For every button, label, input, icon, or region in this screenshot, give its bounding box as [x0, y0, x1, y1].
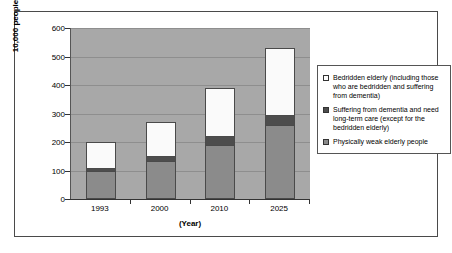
- bar-2025[interactable]: [265, 48, 295, 199]
- legend-item[interactable]: Bedridden elderly (including those who a…: [323, 73, 445, 100]
- y-axis-tick-label: 500: [39, 52, 65, 61]
- y-axis-tick-mark: [65, 57, 70, 58]
- legend-item-label: Bedridden elderly (including those who a…: [333, 73, 445, 100]
- x-axis-tick-label-1993: 1993: [77, 204, 123, 213]
- x-axis-tick-mark: [249, 199, 250, 204]
- x-axis-title: (Year): [70, 219, 310, 228]
- bar-segment[interactable]: [86, 142, 116, 168]
- bar-segment[interactable]: [265, 115, 295, 125]
- bar-1993[interactable]: [86, 142, 116, 199]
- chart-legend: Bedridden elderly (including those who a…: [317, 65, 451, 154]
- x-axis-tick-mark: [130, 199, 131, 204]
- y-axis-tick-mark: [65, 142, 70, 143]
- y-axis-tick-container: 0100200300400500600: [35, 28, 65, 199]
- x-axis-tick-label-2025: 2025: [256, 204, 302, 213]
- medium-gray-swatch: [323, 139, 329, 145]
- plot-area: [70, 28, 310, 199]
- legend-item-label: Suffering from dementia and need long-te…: [333, 105, 445, 132]
- bar-segment[interactable]: [205, 145, 235, 199]
- bar-segment[interactable]: [86, 171, 116, 200]
- y-axis-tick-mark: [65, 85, 70, 86]
- legend-item[interactable]: Physically weak elderly people: [323, 137, 445, 146]
- x-axis-tick-mark: [309, 199, 310, 204]
- bar-2010[interactable]: [205, 88, 235, 199]
- bar-segment[interactable]: [205, 136, 235, 145]
- y-axis-tick-label: 600: [39, 24, 65, 33]
- y-axis-title: 10,000 people: [11, 0, 20, 86]
- x-axis-tick-label-2010: 2010: [196, 204, 242, 213]
- y-axis-tick-mark: [65, 171, 70, 172]
- x-axis-tick-label-2000: 2000: [137, 204, 183, 213]
- y-axis-tick-mark: [65, 199, 70, 200]
- bar-2000[interactable]: [146, 122, 176, 199]
- y-axis-tick-label: 300: [39, 109, 65, 118]
- bar-segment[interactable]: [146, 161, 176, 199]
- y-axis-tick-label: 100: [39, 166, 65, 175]
- bar-segment[interactable]: [146, 122, 176, 156]
- y-axis-tick-label: 0: [39, 195, 65, 204]
- white-swatch: [323, 75, 329, 81]
- bar-segment[interactable]: [265, 125, 295, 199]
- y-axis-tick-label: 400: [39, 81, 65, 90]
- chart-figure-frame: 10,000 people 0100200300400500600 (Year)…: [14, 11, 438, 237]
- bar-segment[interactable]: [265, 48, 295, 115]
- y-axis-tick-mark: [65, 114, 70, 115]
- bar-segment[interactable]: [205, 88, 235, 136]
- legend-item[interactable]: Suffering from dementia and need long-te…: [323, 105, 445, 132]
- dark-gray-swatch: [323, 107, 329, 113]
- gridline: [71, 28, 310, 29]
- x-axis-tick-mark: [190, 199, 191, 204]
- y-axis-tick-label: 200: [39, 138, 65, 147]
- y-axis-tick-mark: [65, 28, 70, 29]
- legend-item-label: Physically weak elderly people: [333, 137, 428, 146]
